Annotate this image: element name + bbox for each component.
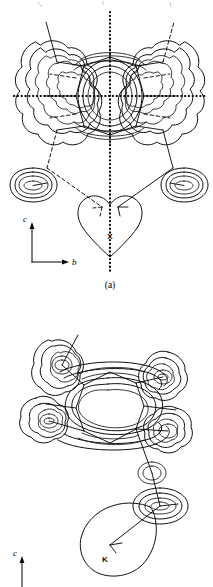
atom-label-x: X — [107, 232, 113, 241]
axis-label-b-a: b — [72, 257, 77, 267]
figure-background — [0, 0, 213, 587]
contour-map-svg: X c b (a) — [0, 0, 213, 587]
atom-label-k: K — [102, 555, 108, 564]
panel-a-caption: (a) — [105, 280, 116, 291]
axis-label-c-a: c — [23, 214, 27, 224]
figure-container: X c b (a) — [0, 0, 213, 587]
axis-label-c-b: c — [13, 548, 17, 558]
